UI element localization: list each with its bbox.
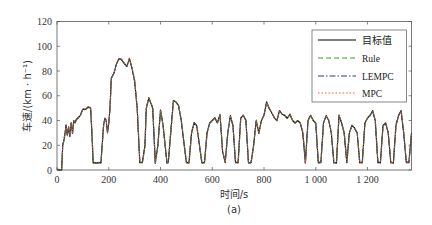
legend-label-lempc: LEMPC <box>362 72 394 82</box>
legend: 目标值 Rule LEMPC MPC <box>312 30 407 102</box>
x-axis-title: 时间/s <box>220 188 249 200</box>
x-tick-label: 1 200 <box>356 174 379 185</box>
legend-box <box>312 30 407 102</box>
legend-label-mpc: MPC <box>362 89 382 99</box>
x-tick-label: 600 <box>205 174 220 185</box>
y-tick-label: 40 <box>42 115 52 126</box>
legend-label-target: 目标值 <box>362 34 392 46</box>
x-tick-label: 0 <box>55 174 60 185</box>
y-tick-label: 0 <box>47 165 52 176</box>
speed-tracking-chart: 020406080100120 02004006008001 0001 200 … <box>0 0 432 225</box>
legend-label-rule: Rule <box>362 54 380 64</box>
y-tick-label: 80 <box>42 66 52 77</box>
x-tick-label: 1 000 <box>305 174 328 185</box>
x-tick-label: 200 <box>101 174 116 185</box>
x-tick-label: 800 <box>257 174 272 185</box>
y-tick-label: 60 <box>42 90 52 101</box>
y-tick-label: 20 <box>42 140 52 151</box>
figure-subtitle: (a) <box>227 204 241 215</box>
x-tick-label: 400 <box>153 174 168 185</box>
y-tick-label: 120 <box>37 16 52 27</box>
y-axis-title: 车速/(km · h⁻¹) <box>21 60 33 132</box>
y-tick-label: 100 <box>37 41 52 52</box>
